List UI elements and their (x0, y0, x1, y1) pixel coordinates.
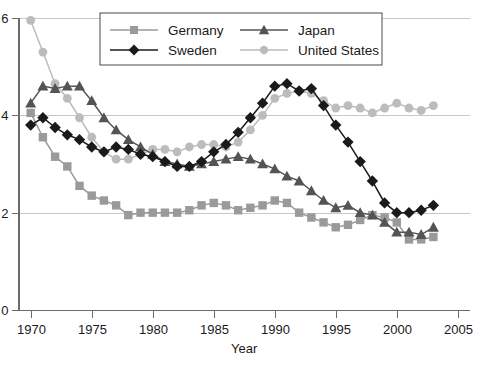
data-point (428, 222, 439, 232)
data-point (271, 196, 279, 204)
data-point (185, 143, 194, 152)
data-point (380, 104, 389, 113)
data-point (26, 16, 35, 25)
data-point (222, 201, 230, 209)
x-tick-label: 1995 (322, 322, 351, 337)
data-point (149, 208, 157, 216)
data-point (416, 205, 427, 216)
data-point (258, 201, 266, 209)
data-point (293, 85, 304, 96)
data-point (281, 171, 292, 181)
data-point (173, 147, 182, 156)
x-axis: 19701975198019851990199520002005Year (17, 311, 473, 356)
data-point (87, 133, 96, 142)
data-point (332, 223, 340, 231)
data-point (27, 109, 35, 117)
data-point (319, 218, 327, 226)
data-point (112, 201, 120, 209)
data-point (37, 81, 48, 91)
data-point (88, 191, 96, 199)
data-point (283, 89, 292, 98)
data-point (124, 155, 133, 164)
data-point (344, 221, 352, 229)
data-point (344, 101, 353, 110)
data-point (294, 176, 305, 186)
data-point (124, 211, 132, 219)
data-point (100, 196, 108, 204)
data-point (123, 144, 134, 155)
data-point (392, 99, 401, 108)
data-point (342, 136, 353, 147)
x-tick-label: 2005 (444, 322, 473, 337)
data-point (98, 112, 109, 122)
data-point (355, 156, 366, 167)
data-point (356, 104, 365, 113)
y-axis: 0246 (1, 11, 19, 318)
data-point (417, 106, 426, 115)
data-point (367, 175, 378, 186)
data-point (429, 233, 437, 241)
data-point (161, 145, 170, 154)
data-point (136, 208, 144, 216)
chart-legend: GermanyJapanSwedenUnited States (100, 13, 382, 65)
x-tick-label: 1975 (78, 322, 107, 337)
data-point (393, 218, 401, 226)
legend-marker-square-icon (130, 26, 138, 34)
data-point (307, 213, 315, 221)
data-point (343, 200, 354, 210)
data-point (63, 162, 71, 170)
data-point (295, 208, 303, 216)
x-tick-label: 1990 (261, 322, 290, 337)
data-point (403, 207, 414, 218)
legend-label: Japan (298, 23, 335, 38)
data-point (75, 113, 84, 122)
data-point (197, 201, 205, 209)
data-point (112, 155, 121, 164)
data-point (428, 200, 439, 211)
legend-label: Germany (168, 23, 224, 38)
data-point (283, 199, 291, 207)
line-chart: 024619701975198019851990199520002005Year… (0, 0, 483, 366)
data-point (246, 204, 254, 212)
data-point (161, 208, 169, 216)
data-point (269, 163, 280, 173)
data-point (63, 94, 72, 103)
data-point (75, 182, 83, 190)
data-point (62, 129, 73, 140)
data-point (39, 133, 47, 141)
y-tick-label: 0 (1, 303, 8, 318)
data-point (197, 140, 206, 149)
legend-label: United States (298, 43, 379, 58)
data-point (405, 104, 414, 113)
y-tick-label: 6 (1, 11, 8, 26)
legend-label: Sweden (168, 43, 217, 58)
data-point (234, 138, 243, 147)
x-tick-label: 1970 (17, 322, 46, 337)
data-point (51, 153, 59, 161)
data-point (281, 78, 292, 89)
data-point (331, 104, 340, 113)
data-point (210, 199, 218, 207)
data-point (173, 208, 181, 216)
data-point (246, 126, 255, 135)
data-point (38, 48, 47, 57)
x-tick-label: 2000 (383, 322, 412, 337)
data-point (270, 94, 279, 103)
data-point (110, 141, 121, 152)
x-tick-label: 1985 (200, 322, 229, 337)
data-point (25, 98, 36, 108)
data-point (185, 206, 193, 214)
data-point (330, 119, 341, 130)
data-point (269, 80, 280, 91)
data-point (234, 206, 242, 214)
y-tick-label: 2 (1, 206, 8, 221)
data-point (74, 134, 85, 145)
legend-marker-circle-icon (260, 46, 268, 54)
series-germany (27, 109, 438, 244)
data-point (258, 111, 267, 120)
series-japan (25, 81, 439, 239)
x-axis-title: Year (231, 341, 258, 356)
data-point (368, 108, 377, 117)
y-tick-label: 4 (1, 108, 8, 123)
data-point (257, 159, 268, 169)
